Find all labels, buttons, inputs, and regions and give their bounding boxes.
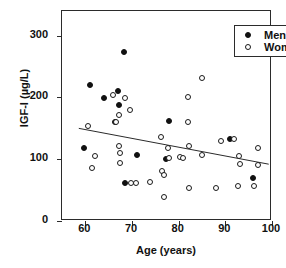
data-point-women [185, 119, 191, 125]
scatter-plot-figure: IGF-I (µg/L) 0100200300 Men Women [0, 0, 286, 268]
data-point-men [101, 95, 107, 101]
y-tick-label: 200 [30, 89, 48, 101]
data-point-women [117, 150, 123, 156]
legend-marker-men-icon [240, 32, 256, 38]
data-point-women [89, 165, 95, 171]
data-point-women [186, 143, 192, 149]
data-point-women [186, 185, 192, 191]
data-point-women [231, 136, 237, 142]
x-tick-label: 100 [262, 222, 280, 234]
legend-marker-women-icon [240, 44, 256, 50]
data-point-women [85, 123, 91, 129]
x-tick-label: 80 [172, 222, 184, 234]
data-point-women [116, 112, 122, 118]
data-point-women [161, 172, 167, 178]
y-tick [57, 159, 62, 160]
legend-item-men: Men [240, 29, 286, 41]
data-point-women [110, 92, 116, 98]
data-point-men [116, 102, 122, 108]
y-tick-label: 100 [30, 151, 48, 163]
data-point-men [87, 82, 93, 88]
data-point-women [237, 161, 243, 167]
data-point-women [165, 145, 171, 151]
data-point-women [117, 160, 123, 166]
y-tick-label: 0 [42, 213, 48, 225]
data-point-women [127, 107, 133, 113]
legend: Men Women [234, 25, 286, 57]
legend-label-women: Women [256, 41, 286, 53]
x-tick-label: 90 [218, 222, 230, 234]
y-tick [57, 36, 62, 37]
data-point-women [235, 183, 241, 189]
x-axis-tick-labels: 60708090100 [61, 222, 271, 240]
data-point-men [250, 175, 256, 181]
data-point-women [251, 183, 257, 189]
data-point-men [134, 152, 140, 158]
data-point-women [158, 134, 164, 140]
data-point-women [166, 155, 172, 161]
x-tick-label: 60 [78, 222, 90, 234]
data-point-women [185, 94, 191, 100]
data-point-women [213, 185, 219, 191]
data-point-women [113, 119, 119, 125]
data-point-women [218, 138, 224, 144]
data-point-men [81, 145, 87, 151]
data-point-women [122, 95, 128, 101]
x-tick-label: 70 [125, 222, 137, 234]
data-point-women [161, 194, 167, 200]
data-point-women [199, 152, 205, 158]
y-tick [57, 97, 62, 98]
data-point-women [255, 162, 261, 168]
data-point-men [121, 49, 127, 55]
data-point-women [199, 75, 205, 81]
plot-frame: Men Women [61, 10, 271, 220]
data-point-women [236, 153, 242, 159]
data-point-women [116, 143, 122, 149]
data-point-women [255, 145, 261, 151]
x-axis-title: Age (years) [61, 244, 271, 256]
legend-label-men: Men [256, 29, 286, 41]
data-point-women [133, 180, 139, 186]
data-point-men [166, 118, 172, 124]
data-point-women [92, 153, 98, 159]
data-point-women [180, 155, 186, 161]
y-axis-tick-labels: 0100200300 [0, 10, 56, 220]
legend-item-women: Women [240, 41, 286, 53]
data-point-women [147, 179, 153, 185]
y-tick-label: 300 [30, 28, 48, 40]
